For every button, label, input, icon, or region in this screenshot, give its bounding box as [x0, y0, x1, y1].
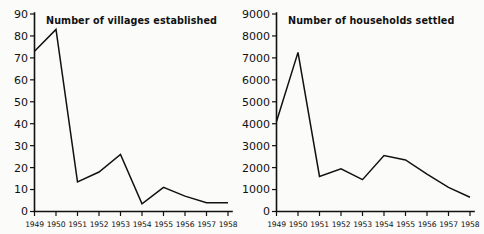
villages-x-tick-labels: 1949195019511952195319541955195619571958 — [25, 220, 237, 229]
y-tick-label: 3000 — [242, 140, 270, 153]
y-tick-label: 8000 — [242, 30, 270, 43]
x-tick-label: 1957 — [439, 220, 458, 229]
x-tick-label: 1953 — [111, 220, 130, 229]
x-tick-label: 1958 — [461, 220, 480, 229]
x-tick-label: 1949 — [267, 220, 286, 229]
y-tick-label: 4000 — [242, 118, 270, 131]
villages-axes — [30, 13, 232, 216]
x-tick-label: 1954 — [133, 220, 152, 229]
y-tick-label: 6000 — [242, 74, 270, 87]
x-tick-label: 1957 — [197, 220, 216, 229]
y-tick-label: 30 — [14, 140, 28, 153]
y-tick-label: 7000 — [242, 52, 270, 65]
y-tick-label: 9000 — [242, 8, 270, 21]
y-tick-label: 60 — [14, 74, 28, 87]
villages-data-line — [35, 29, 229, 203]
y-tick-label: 50 — [14, 96, 28, 109]
households-axes — [272, 13, 474, 216]
villages-chart-svg: 0102030405060708090 19491950195119521953… — [0, 0, 242, 234]
chart-panel-households: 0100020003000400050006000700080009000 19… — [242, 0, 484, 234]
y-tick-label: 90 — [14, 8, 28, 21]
x-tick-label: 1951 — [68, 220, 87, 229]
households-chart-svg: 0100020003000400050006000700080009000 19… — [242, 0, 484, 234]
villages-y-tick-labels: 0102030405060708090 — [14, 8, 28, 219]
x-tick-label: 1953 — [353, 220, 372, 229]
y-tick-label: 10 — [14, 183, 28, 196]
chart-panel-villages: 0102030405060708090 19491950195119521953… — [0, 0, 242, 234]
households-y-tick-labels: 0100020003000400050006000700080009000 — [242, 8, 270, 219]
x-tick-label: 1958 — [219, 220, 238, 229]
x-tick-label: 1949 — [25, 220, 44, 229]
y-tick-label: 80 — [14, 30, 28, 43]
y-tick-label: 1000 — [242, 183, 270, 196]
y-tick-label: 0 — [263, 205, 270, 218]
households-axis-lines — [277, 13, 475, 212]
x-tick-label: 1956 — [176, 220, 195, 229]
x-tick-label: 1950 — [289, 220, 308, 229]
y-tick-label: 2000 — [242, 162, 270, 175]
x-tick-label: 1951 — [310, 220, 329, 229]
x-tick-label: 1955 — [396, 220, 415, 229]
x-tick-label: 1952 — [332, 220, 351, 229]
x-tick-label: 1950 — [47, 220, 66, 229]
households-chart-title: Number of households settled — [288, 15, 454, 26]
figure-container: 0102030405060708090 19491950195119521953… — [0, 0, 484, 234]
y-tick-label: 40 — [14, 118, 28, 131]
y-tick-label: 20 — [14, 162, 28, 175]
x-tick-label: 1952 — [90, 220, 109, 229]
households-data-line — [277, 52, 471, 197]
x-tick-label: 1954 — [375, 220, 394, 229]
households-x-tick-labels: 1949195019511952195319541955195619571958 — [267, 220, 479, 229]
villages-axis-lines — [35, 13, 233, 212]
x-tick-label: 1955 — [154, 220, 173, 229]
y-tick-label: 0 — [21, 205, 28, 218]
y-tick-label: 5000 — [242, 96, 270, 109]
x-tick-label: 1956 — [418, 220, 437, 229]
y-tick-label: 70 — [14, 52, 28, 65]
villages-chart-title: Number of villages established — [46, 15, 217, 26]
